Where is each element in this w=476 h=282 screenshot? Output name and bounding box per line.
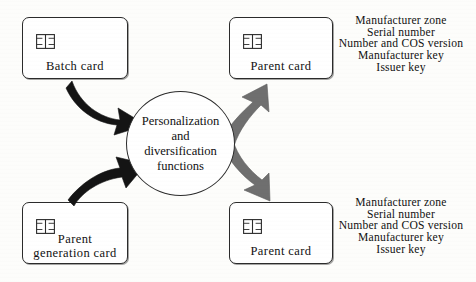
card-parent-card-top[interactable]: Parent card bbox=[229, 17, 333, 79]
card-label-parent-card-bottom: Parent card bbox=[230, 245, 332, 259]
card-label-parent-card-top: Parent card bbox=[230, 60, 332, 74]
card-parent-card-bottom[interactable]: Parent card bbox=[229, 202, 333, 264]
attribute-item: Manufacturer zone bbox=[328, 197, 474, 209]
attributes-top: Manufacturer zone Serial number Number a… bbox=[328, 15, 474, 74]
process-ellipse-label: Personalization and diversification func… bbox=[140, 114, 222, 174]
attribute-item: Issuer key bbox=[328, 244, 474, 256]
process-ellipse[interactable]: Personalization and diversification func… bbox=[126, 91, 235, 196]
card-label-parent-generation-card: Parent generation card bbox=[23, 233, 127, 260]
diagram-canvas: Batch card Parent generation card Par bbox=[0, 0, 476, 282]
smartcard-chip-icon bbox=[36, 34, 55, 49]
attribute-item: Manufacturer zone bbox=[328, 15, 474, 27]
smartcard-chip-icon bbox=[36, 219, 55, 234]
card-label-batch-card: Batch card bbox=[23, 60, 127, 74]
card-parent-generation-card[interactable]: Parent generation card bbox=[22, 202, 128, 264]
card-batch-card[interactable]: Batch card bbox=[22, 17, 128, 79]
smartcard-chip-icon bbox=[243, 34, 262, 49]
attributes-bottom: Manufacturer zone Serial number Number a… bbox=[328, 197, 474, 256]
attribute-item: Issuer key bbox=[328, 62, 474, 74]
smartcard-chip-icon bbox=[243, 219, 262, 234]
